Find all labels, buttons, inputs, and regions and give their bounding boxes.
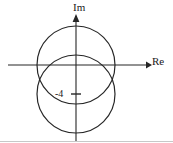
real-axis-label: Re — [152, 56, 164, 67]
up-arrow-icon — [73, 14, 80, 22]
tick-label-minus-four: -4 — [55, 89, 63, 99]
figure-canvas — [0, 0, 173, 143]
imaginary-axis-label: Im — [73, 2, 85, 13]
complex-plane-figure: Im Re -4 — [0, 0, 173, 143]
